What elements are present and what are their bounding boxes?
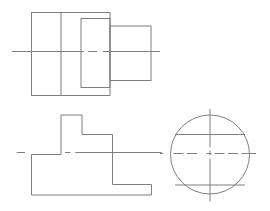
outer-block-outline [32, 13, 111, 96]
side-view [160, 109, 256, 202]
inner-block-outline [81, 19, 110, 88]
drawing-canvas [0, 0, 270, 211]
front-view [17, 115, 162, 195]
right-block-outline [110, 26, 151, 81]
top-view [12, 13, 160, 96]
drawing-svg [0, 0, 270, 211]
stepped-profile-outline [32, 115, 152, 195]
